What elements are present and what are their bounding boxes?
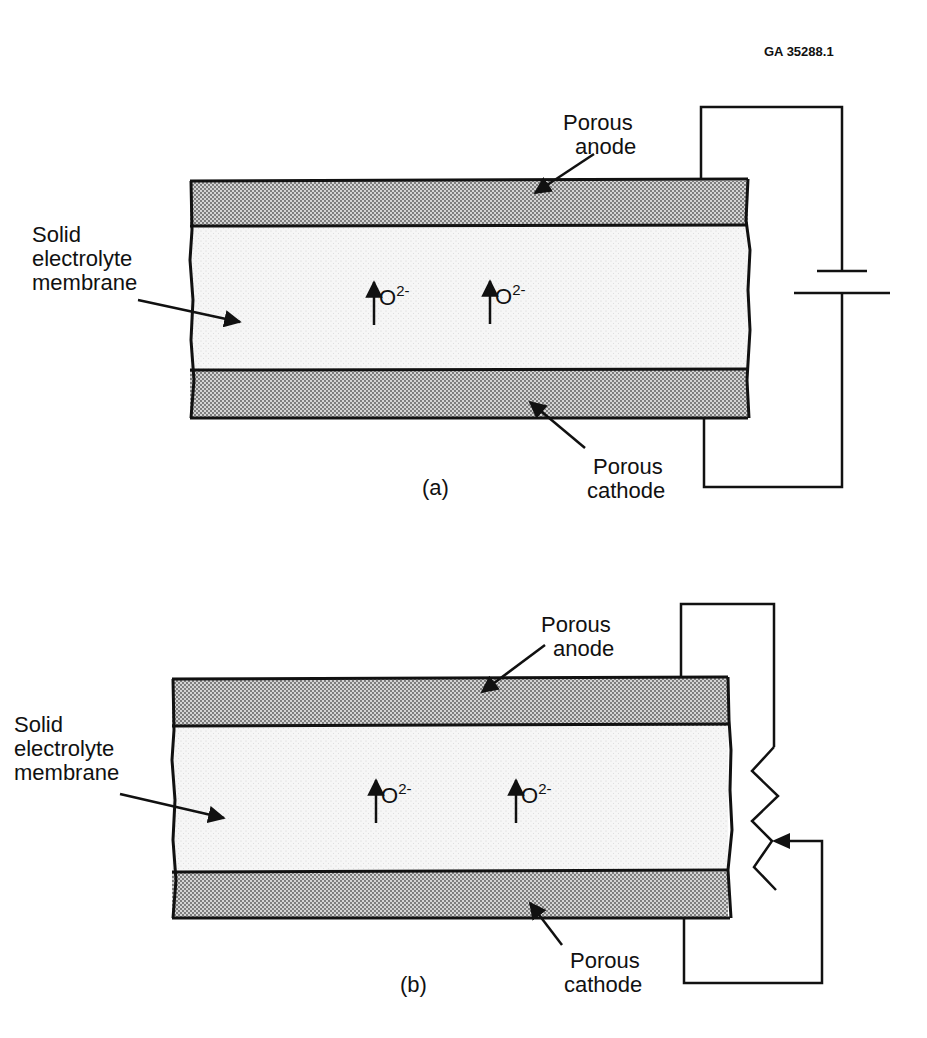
cathode-label-b: Porous cathode: [564, 948, 646, 997]
wiper-arrow-icon: [772, 833, 790, 849]
panel-b: O2- O2- Porous anode Solid electrolyte m…: [14, 604, 822, 997]
caption-a: (a): [422, 475, 449, 500]
cathode-label-a: Porous cathode: [587, 454, 669, 503]
membrane-layer-b: [172, 726, 728, 872]
caption-b: (b): [400, 972, 427, 997]
anode-layer-a: [190, 181, 748, 226]
membrane-label-b: Solid electrolyte membrane: [14, 712, 120, 785]
anode-layer-b: [172, 678, 728, 726]
anode-label-b: Porous anode: [541, 612, 617, 661]
resistor-zigzag-icon: [752, 747, 778, 890]
cathode-layer-a: [190, 370, 748, 418]
cathode-layer-b: [172, 872, 728, 918]
panel-a: O2- O2- Porous anode Solid electrolyte m…: [32, 107, 890, 503]
membrane-layer-a: [190, 226, 748, 370]
membrane-label-a: Solid electrolyte membrane: [32, 222, 138, 295]
right-break-edge-b: [728, 677, 732, 918]
figure-id: GA 35288.1: [764, 44, 834, 59]
anode-label-a: Porous anode: [563, 110, 639, 159]
fuel-cell-diagram: GA 35288.1 O2- O2- Porous anode: [0, 0, 927, 1038]
